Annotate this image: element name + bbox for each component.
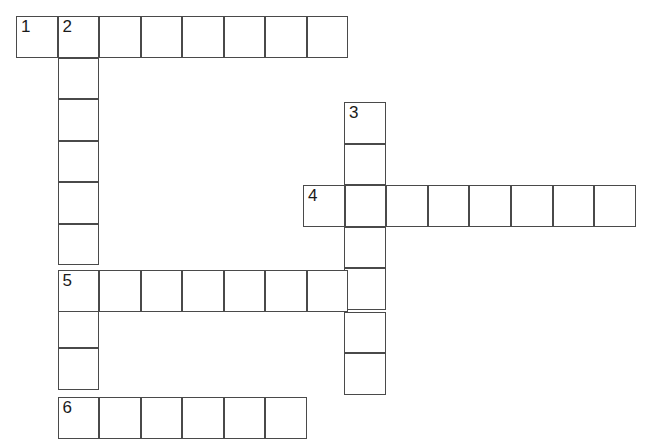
crossword-cell[interactable] xyxy=(265,16,307,58)
crossword-cell[interactable] xyxy=(344,227,386,269)
crossword-cell[interactable] xyxy=(594,185,636,227)
crossword-cell[interactable] xyxy=(345,185,387,227)
crossword-cell[interactable]: 6 xyxy=(58,397,100,439)
cell-number: 5 xyxy=(63,272,72,290)
crossword-grid: 123456 xyxy=(0,0,648,448)
crossword-cell[interactable] xyxy=(58,224,100,266)
crossword-cell[interactable] xyxy=(99,270,141,312)
crossword-cell[interactable] xyxy=(58,99,100,141)
crossword-cell[interactable] xyxy=(344,312,386,354)
crossword-cell[interactable] xyxy=(58,348,100,390)
cell-number: 6 xyxy=(63,399,72,417)
crossword-cell[interactable]: 1 xyxy=(16,16,58,58)
crossword-cell[interactable] xyxy=(141,397,183,439)
crossword-cell[interactable] xyxy=(224,270,266,312)
cell-number: 1 xyxy=(21,18,30,36)
crossword-cell[interactable]: 3 xyxy=(344,102,386,144)
crossword-cell[interactable] xyxy=(58,141,100,183)
crossword-cell[interactable] xyxy=(344,353,386,395)
crossword-cell[interactable] xyxy=(58,182,100,224)
crossword-cell[interactable]: 4 xyxy=(303,185,345,227)
crossword-cell[interactable] xyxy=(58,307,100,349)
crossword-cell[interactable] xyxy=(307,16,349,58)
crossword-cell[interactable] xyxy=(141,16,183,58)
crossword-cell[interactable] xyxy=(182,397,224,439)
crossword-cell[interactable]: 2 xyxy=(58,16,100,58)
crossword-cell[interactable] xyxy=(469,185,511,227)
cell-number: 2 xyxy=(63,18,72,36)
cell-number: 4 xyxy=(308,187,317,205)
crossword-cell[interactable] xyxy=(265,270,307,312)
crossword-cell[interactable] xyxy=(386,185,428,227)
cell-number: 3 xyxy=(349,104,358,122)
crossword-cell[interactable] xyxy=(182,16,224,58)
crossword-cell[interactable] xyxy=(58,58,100,100)
crossword-cell[interactable] xyxy=(99,397,141,439)
crossword-cell[interactable] xyxy=(99,16,141,58)
crossword-cell[interactable] xyxy=(344,268,386,310)
crossword-cell[interactable]: 5 xyxy=(58,270,100,312)
crossword-cell[interactable] xyxy=(182,270,224,312)
crossword-cell[interactable] xyxy=(428,185,470,227)
crossword-cell[interactable] xyxy=(224,397,266,439)
crossword-cell[interactable] xyxy=(344,144,386,186)
crossword-cell[interactable] xyxy=(553,185,595,227)
crossword-cell[interactable] xyxy=(511,185,553,227)
crossword-cell[interactable] xyxy=(141,270,183,312)
crossword-cell[interactable] xyxy=(224,16,266,58)
crossword-cell[interactable] xyxy=(265,397,307,439)
crossword-cell[interactable] xyxy=(307,270,349,312)
